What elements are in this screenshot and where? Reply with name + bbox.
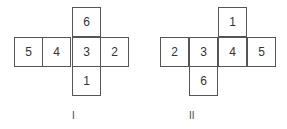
net-I-cell-top: 6 [72,7,101,37]
net-I-label: I [72,110,75,121]
net-II-label: II [189,110,195,121]
net-I-cell-bottom: 1 [72,66,101,96]
net-I-cell-row-4: 2 [100,37,129,67]
net-II-cell-bottom: 6 [189,66,218,96]
net-II-cell-row-3: 4 [218,37,247,67]
net-I-cell-row-1: 5 [14,37,43,67]
net-I-cell-row-3: 3 [72,37,101,67]
net-II-cell-top: 1 [218,7,247,37]
net-I-cell-row-2: 4 [42,37,71,67]
net-II-cell-row-1: 2 [160,37,189,67]
net-II-cell-row-4: 5 [247,37,276,67]
net-II-cell-row-2: 3 [189,37,218,67]
